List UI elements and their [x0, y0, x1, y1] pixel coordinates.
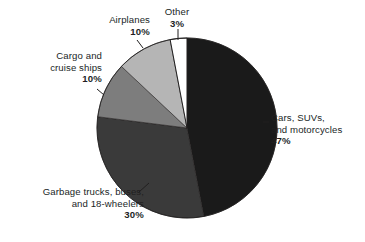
pie-label-line1: Other: [152, 6, 202, 18]
pie-label-percent: 30%: [4, 209, 144, 221]
pie-label-other: Other 3%: [152, 6, 202, 29]
pie-label-percent: 10%: [22, 73, 102, 85]
pie-label-percent: 3%: [152, 18, 202, 30]
pie-slice: [187, 38, 277, 216]
pie-label-line1: Garbage trucks, buses,: [4, 186, 144, 198]
pie-label-line2: and 18-wheelers: [4, 198, 144, 210]
pie-label-line2: cruise ships: [22, 62, 102, 74]
pie-label-cargo-cruise-ships: Cargo and cruise ships 10%: [22, 50, 102, 85]
leader-line-airplanes: [137, 40, 143, 48]
pie-label-line1: Airplanes: [88, 14, 150, 26]
pie-label-cars-suvs-motorcycles: Cars, SUVs, and motorcycles 47%: [271, 112, 342, 147]
pie-label-line1: Cars, SUVs,: [271, 112, 342, 124]
pie-label-percent: 47%: [271, 135, 342, 147]
pie-label-line2: and motorcycles: [271, 124, 342, 136]
pie-label-line1: Cargo and: [22, 50, 102, 62]
leader-line-cargo: [97, 89, 104, 95]
pie-label-percent: 10%: [88, 26, 150, 38]
pie-label-garbage-trucks-buses: Garbage trucks, buses, and 18-wheelers 3…: [4, 186, 144, 221]
pie-chart-figure: Cars, SUVs, and motorcycles 47% Garbage …: [0, 0, 365, 242]
pie-label-airplanes: Airplanes 10%: [88, 14, 150, 37]
